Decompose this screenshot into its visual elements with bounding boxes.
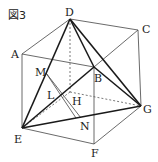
label-G: G [143,103,152,116]
label-N: N [80,120,90,133]
label-L: L [47,89,55,102]
label-F: F [91,147,99,160]
cube-pyramid-diagram: 図3 D C A M B L H G N E [0,0,158,162]
label-D: D [65,6,74,19]
label-M: M [35,66,46,79]
label-H: H [72,95,82,108]
label-A: A [10,48,20,61]
figure-title: 図3 [8,9,26,22]
label-E: E [14,133,22,146]
label-C: C [142,23,150,36]
label-B: B [94,72,102,85]
